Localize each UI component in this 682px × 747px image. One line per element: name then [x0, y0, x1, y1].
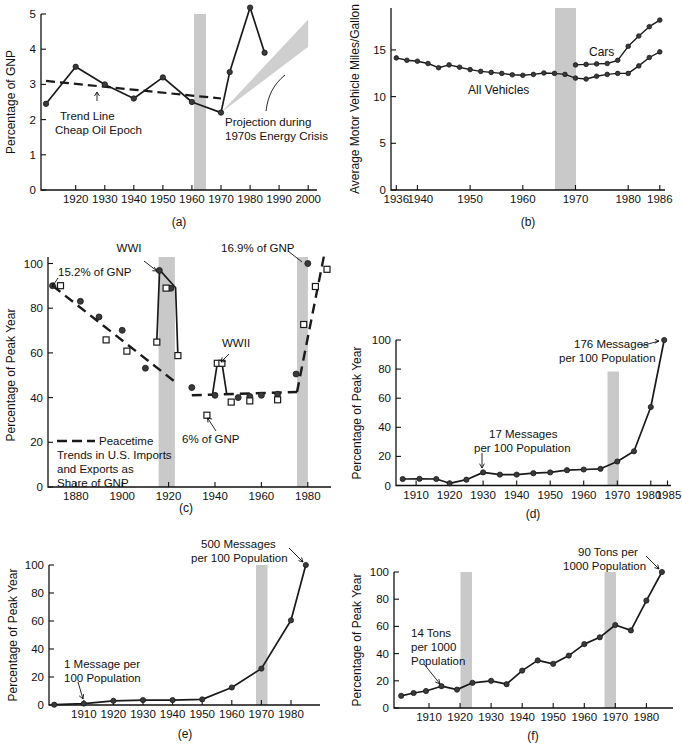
x-tick-1930: 1930: [130, 708, 156, 720]
figure-root: 0 1 2 3 4 5 1920 1930: [0, 0, 682, 747]
y-tick-1: 1: [30, 149, 36, 161]
x-tick-1950: 1950: [189, 708, 215, 720]
x-tick-1920: 1920: [156, 490, 182, 502]
annotation-6-gnp: 6% of GNP: [182, 433, 240, 445]
annot-6-gnp-arrow-icon: [208, 418, 217, 431]
panel-b: 0 5 10 15 1936 1940 1950 1960 1970 19: [341, 0, 682, 235]
y-tickmarks: [48, 264, 53, 488]
trend-line-arrow-icon: [95, 92, 100, 101]
y-axis-title: Percentage of Peak Year: [350, 574, 364, 707]
y-tick-4: 4: [30, 43, 37, 55]
panel-b-svg: 0 5 10 15 1936 1940 1950 1960 1970 19: [341, 0, 682, 235]
panel-label-f: (f): [527, 729, 538, 743]
panel-e: 0 20 40 60 80 100 1910 1920 1930: [0, 530, 341, 747]
y-tick-40: 40: [31, 643, 44, 655]
y-tick-labels: 0 20 40 60 80 100: [372, 334, 391, 492]
shaded-band-1969: [605, 572, 617, 708]
y-tick-0: 0: [30, 184, 36, 196]
annot-500-arrow-icon: [289, 548, 303, 562]
y-tick-2: 2: [30, 114, 36, 126]
panel-label-b: (b): [521, 215, 536, 229]
x-tick-1950: 1950: [457, 193, 483, 205]
y-tick-labels: 0 20 40 60 80 100: [24, 258, 43, 494]
y-tick-20: 20: [30, 436, 43, 448]
x-tick-1940: 1940: [504, 489, 530, 501]
y-tick-3: 3: [30, 78, 36, 90]
x-tick-2000: 2000: [295, 193, 321, 205]
annotation-500-line2: per 100 Population: [191, 552, 288, 564]
y-tickmarks: [394, 572, 399, 708]
x-tick-1910: 1910: [403, 489, 429, 501]
y-tick-60: 60: [31, 615, 44, 627]
shaded-band-1970: [608, 372, 620, 486]
x-tick-1930: 1930: [478, 711, 504, 723]
y-tick-15: 15: [373, 44, 386, 56]
x-tick-1960: 1960: [510, 193, 536, 205]
axis-lines: [41, 14, 317, 190]
y-tick-80: 80: [30, 302, 43, 314]
y-tick-5: 5: [30, 8, 36, 20]
x-tick-1936: 1936: [384, 193, 410, 205]
projection-wedge: [221, 19, 308, 112]
annotation-15-2-gnp: 15.2% of GNP: [58, 266, 132, 278]
annotation-176-line1: 176 Messages: [574, 338, 649, 350]
panel-a-svg: 0 1 2 3 4 5 1920 1930: [0, 0, 341, 235]
annotation-17-line2: per 100 Population: [474, 442, 571, 454]
x-tick-1985: 1985: [656, 489, 682, 501]
axis-lines: [391, 8, 665, 190]
y-tick-100: 100: [372, 334, 391, 346]
y-tick-100: 100: [25, 559, 44, 571]
y-tick-0: 0: [383, 702, 389, 714]
x-tick-1930: 1930: [470, 489, 496, 501]
shaded-band-1970: [555, 8, 576, 190]
annot-90tons-arrow-icon: [646, 556, 659, 569]
x-tick-labels: 1910 1920 1930 1940 1950 1960 1970 1980: [71, 708, 304, 720]
y-tick-labels: 0 1 2 3 4 5: [30, 8, 37, 196]
legend-line-1: Peacetime: [99, 435, 153, 447]
x-tick-labels: 1910 1920 1930 1940 1950 1960 1970 1980 …: [403, 489, 681, 501]
annotation-90tons-line1: 90 Tons per: [578, 546, 638, 558]
series-label-all-vehicles: All Vehicles: [468, 83, 529, 97]
trend-segment-2: [192, 392, 297, 395]
y-tick-0: 0: [37, 481, 43, 493]
y-tickmarks: [391, 50, 396, 190]
annotation-trend-line-2: Cheap Oil Epoch: [55, 124, 142, 136]
annotation-500-line1: 500 Messages: [201, 538, 276, 550]
y-tick-80: 80: [31, 587, 44, 599]
x-tick-1960: 1960: [572, 711, 598, 723]
y-axis-title: Average Motor Vehicle Miles/Gallon: [348, 4, 362, 194]
y-tick-10: 10: [373, 91, 386, 103]
annotation-17-line1: 17 Messages: [489, 428, 558, 440]
annotation-14tons-line3: Population: [411, 655, 465, 667]
y-axis-title: Percentage of Peak Year: [4, 309, 18, 442]
x-tick-1970: 1970: [605, 489, 631, 501]
x-tick-1900: 1900: [109, 490, 135, 502]
x-tick-1980: 1980: [237, 193, 263, 205]
y-tick-60: 60: [376, 620, 389, 632]
x-tick-1990: 1990: [266, 193, 292, 205]
annotation-90tons-line2: 1000 Population: [563, 560, 646, 572]
annotation-trend-line-1: Trend Line: [60, 110, 115, 122]
series-label-cars: Cars: [589, 45, 614, 59]
annotation-projection-1: Projection during: [225, 116, 311, 128]
shaded-band-1970: [256, 565, 268, 705]
x-tick-1980: 1980: [634, 711, 660, 723]
x-tick-1940: 1940: [121, 193, 147, 205]
x-tick-1950: 1950: [537, 489, 563, 501]
annotation-wwi: WWI: [117, 242, 142, 254]
y-tick-0: 0: [385, 480, 391, 492]
x-tick-1980: 1980: [278, 708, 304, 720]
y-tick-60: 60: [30, 347, 43, 359]
x-tick-1960: 1960: [571, 489, 597, 501]
panel-label-a: (a): [172, 215, 187, 229]
panel-d: 0 20 40 60 80 100 1910 1920: [341, 330, 682, 525]
x-tick-1950: 1950: [540, 711, 566, 723]
panel-label-e: (e): [178, 727, 193, 741]
panel-c: 0 20 40 60 80 100 1880 1900 1920 1940: [0, 235, 341, 515]
annot-1msg-arrow-icon: [78, 682, 84, 699]
y-tick-40: 40: [376, 648, 389, 660]
y-axis-title: Percentage of Peak Year: [6, 569, 20, 702]
y-tickmarks: [49, 565, 54, 705]
x-tick-1920: 1920: [447, 711, 473, 723]
series-messages-markers: [52, 562, 309, 707]
